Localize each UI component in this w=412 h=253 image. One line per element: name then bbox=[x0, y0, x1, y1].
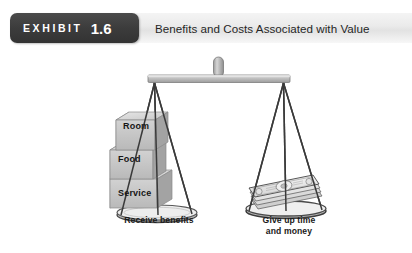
exhibit-header: EXHIBIT 1.6 Benefits and Costs Associate… bbox=[0, 13, 412, 43]
caption-give-up-line1: Give up time bbox=[233, 215, 345, 226]
caption-give-up-line2: and money bbox=[233, 226, 345, 237]
scale-beam bbox=[148, 75, 290, 83]
block-label-food: Food bbox=[118, 154, 141, 164]
balance-scale-illustration: Room Food Service Receive benefits Give … bbox=[0, 48, 412, 253]
exhibit-badge: EXHIBIT 1.6 bbox=[10, 13, 139, 43]
exhibit-number: 1.6 bbox=[91, 21, 112, 36]
exhibit-label: EXHIBIT bbox=[23, 23, 83, 34]
exhibit-title: Benefits and Costs Associated with Value bbox=[155, 13, 369, 43]
caption-receive-benefits: Receive benefits bbox=[103, 215, 215, 226]
block-label-room: Room bbox=[123, 121, 149, 131]
scale-pivot bbox=[214, 57, 224, 77]
caption-give-up: Give up time and money bbox=[233, 215, 345, 236]
block-label-service: Service bbox=[118, 188, 151, 198]
